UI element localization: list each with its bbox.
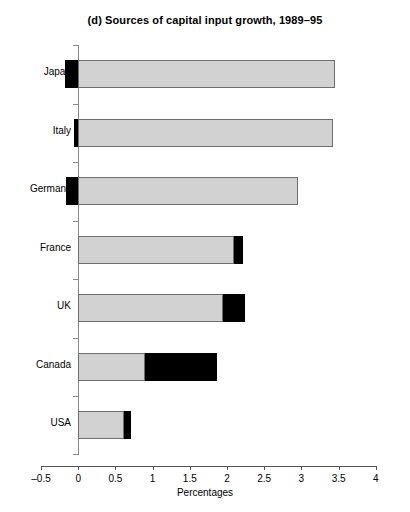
x-tick	[78, 466, 79, 470]
x-tick-label: –0.5	[31, 473, 50, 484]
bar-segment-canada-gray	[78, 353, 145, 381]
bar-segment-uk-gray	[78, 294, 223, 322]
y-tick	[73, 104, 78, 105]
x-tick	[264, 466, 265, 470]
bar-row-usa: USA	[41, 396, 376, 455]
x-tick-label: 1	[150, 473, 156, 484]
y-tick	[73, 162, 78, 163]
x-tick-label: 2.5	[257, 473, 271, 484]
x-tick-label: 4	[373, 473, 379, 484]
y-tick	[73, 454, 78, 455]
bar-segment-uk-black	[223, 294, 245, 322]
bar-segment-usa-gray	[78, 411, 124, 439]
capital-input-growth-chart: (d) Sources of capital input growth, 198…	[0, 0, 410, 512]
bar-segment-france-black	[234, 236, 243, 264]
bar-row-france: France	[41, 221, 376, 280]
y-tick	[73, 338, 78, 339]
x-tick-label: 0.5	[108, 473, 122, 484]
x-axis: –0.5 0 0.5 1 1.5 2 2.5 3 3.5 4	[41, 466, 376, 467]
x-tick	[153, 466, 154, 470]
bar-segment-france-gray	[78, 236, 234, 264]
x-tick	[190, 466, 191, 470]
x-tick	[41, 466, 42, 470]
bar-segment-canada-black	[145, 353, 217, 381]
bar-segment-italy-gray	[78, 119, 333, 147]
x-tick	[301, 466, 302, 470]
bar-segment-japan-black	[65, 60, 78, 88]
category-label-germany: Germany	[30, 184, 71, 194]
plot-area: Japan Italy Germany France U	[41, 45, 376, 455]
bar-segment-usa-black	[124, 411, 131, 439]
bar-row-italy: Italy	[41, 104, 376, 163]
bar-row-uk: UK	[41, 279, 376, 338]
bar-row-japan: Japan	[41, 45, 376, 104]
x-tick	[115, 466, 116, 470]
x-tick	[376, 466, 377, 470]
bar-row-germany: Germany	[41, 162, 376, 221]
x-tick-label: 3	[299, 473, 305, 484]
bar-segment-japan-gray	[78, 60, 335, 88]
y-tick	[73, 396, 78, 397]
x-tick	[227, 466, 228, 470]
x-tick-label: 3.5	[332, 473, 346, 484]
category-label-italy: Italy	[53, 126, 71, 136]
x-tick-label: 1.5	[183, 473, 197, 484]
category-label-france: France	[40, 243, 71, 253]
bar-row-canada: Canada	[41, 338, 376, 397]
category-label-canada: Canada	[36, 360, 71, 370]
y-tick	[73, 279, 78, 280]
y-tick	[73, 45, 78, 46]
category-label-usa: USA	[50, 418, 71, 428]
bar-segment-germany-black	[66, 177, 78, 205]
bar-segment-germany-gray	[78, 177, 298, 205]
category-label-uk: UK	[57, 301, 71, 311]
y-tick	[73, 221, 78, 222]
x-tick	[339, 466, 340, 470]
x-tick-label: 2	[224, 473, 230, 484]
chart-title: (d) Sources of capital input growth, 198…	[0, 14, 410, 26]
x-axis-label: Percentages	[0, 487, 410, 498]
x-tick-label: 0	[75, 473, 81, 484]
